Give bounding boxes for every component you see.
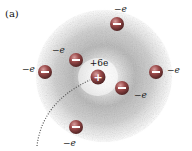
minus-icon	[72, 126, 80, 128]
minus-icon	[152, 71, 160, 73]
plus-icon: +	[93, 71, 102, 84]
atom-diagram: (a) + +6e −e −e −e −e −e	[0, 0, 192, 151]
nucleus-charge-label: +6e	[90, 58, 109, 68]
minus-icon	[72, 59, 80, 61]
electron-charge-label: −e	[114, 4, 127, 14]
minus-icon	[41, 71, 49, 73]
electron-charge-label: −e	[63, 138, 76, 148]
electron-charge-label: −e	[52, 45, 65, 55]
electron-charge-label: −e	[167, 65, 180, 75]
minus-icon	[118, 87, 126, 89]
electron-charge-label: −e	[134, 90, 147, 100]
minus-icon	[113, 23, 121, 25]
panel-label: (a)	[5, 8, 19, 19]
electron-charge-label: −e	[22, 64, 35, 74]
